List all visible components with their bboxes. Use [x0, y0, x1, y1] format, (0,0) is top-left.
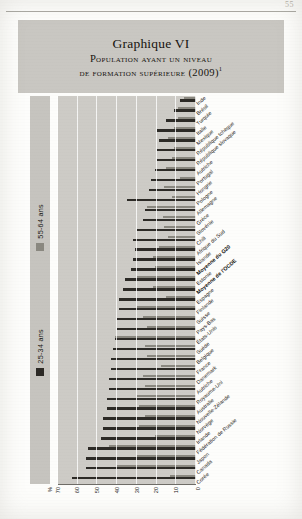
x-tick-label: 70 [55, 487, 61, 493]
category-labels: IndeBrésilTurquieItalieMexiqueRépublique… [197, 96, 283, 484]
grid-line [77, 96, 78, 484]
x-axis-unit-label: % [48, 487, 54, 492]
bar-25-34 [174, 109, 196, 111]
bar-25-34 [86, 467, 196, 469]
legend-item-old: 55-64 ans [36, 204, 45, 251]
bar-25-34 [135, 248, 196, 250]
bar-25-34 [137, 229, 196, 231]
x-tick-label: 10 [173, 487, 179, 493]
bar-25-34 [133, 258, 196, 260]
bar-25-34 [109, 378, 196, 380]
legend-label-old: 55-64 ans [36, 204, 45, 239]
x-tick-label: 30 [134, 487, 140, 493]
x-tick-label: 60 [75, 487, 81, 493]
legend-label-young: 25-34 ans [36, 329, 45, 364]
bar-25-34 [88, 447, 196, 449]
bar-25-34 [117, 318, 196, 320]
bar-25-34 [107, 407, 196, 409]
bar-25-34 [119, 298, 196, 300]
legend-swatch-young [36, 368, 44, 376]
page-number: 55 [285, 0, 294, 9]
bar-25-34 [133, 239, 196, 241]
legend-item-young: 25-34 ans [36, 329, 45, 376]
bar-25-34 [159, 139, 196, 141]
bar-25-34 [180, 99, 196, 101]
plot-region [58, 96, 196, 484]
grid-line [136, 96, 137, 484]
grid-line [116, 96, 117, 484]
bar-25-34 [143, 219, 196, 221]
figure-footnote-marker: 1 [219, 65, 223, 72]
bar-25-34 [119, 308, 196, 310]
bar-25-34 [109, 388, 196, 390]
bar-25-34 [127, 199, 196, 201]
bar-25-34 [117, 328, 196, 330]
bar-25-34 [103, 417, 196, 419]
bar-25-34 [86, 457, 196, 459]
grid-line [57, 96, 58, 484]
bar-25-34 [107, 398, 196, 400]
figure-title-line-1: Population ayant un niveau [90, 53, 212, 64]
x-tick-label: 20 [153, 487, 159, 493]
figure-number: Graphique VI [113, 36, 190, 52]
bar-25-34 [131, 268, 196, 270]
bar-25-34 [72, 477, 196, 479]
grid-line [96, 96, 97, 484]
x-tick-label: 0 [194, 487, 200, 490]
x-tick-label: 40 [114, 487, 120, 493]
bar-25-34 [111, 368, 196, 370]
header-rule [6, 11, 296, 12]
bar-25-34 [103, 427, 196, 429]
bar-25-34 [151, 179, 196, 181]
grid-line [156, 96, 157, 484]
figure-title-line-2-text: de formation supérieure (2009) [80, 66, 219, 77]
bar-25-34 [123, 288, 196, 290]
bar-25-34 [111, 358, 196, 360]
figure-title-band: Graphique VI Population ayant un niveau … [18, 20, 284, 93]
bar-25-34 [145, 209, 196, 211]
grid-line [175, 96, 176, 484]
x-axis-ticks: 706050403020100% [58, 485, 196, 515]
x-tick-label: 50 [94, 487, 100, 493]
bar-25-34 [166, 119, 196, 121]
figure-title-line-2: de formation supérieure (2009)1 [80, 65, 223, 78]
chart-area: 55-64 ans 25-34 ans IndeBrésilTurquieIta… [18, 96, 284, 500]
legend-swatch-old [36, 243, 44, 251]
chart-legend: 55-64 ans 25-34 ans [30, 96, 50, 484]
